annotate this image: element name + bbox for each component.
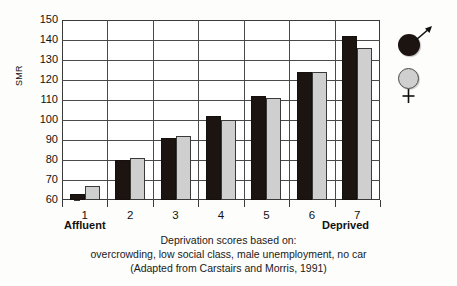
axis-end-label: Deprived bbox=[322, 219, 369, 231]
y-tick-label: 80 bbox=[24, 154, 58, 165]
bar-group bbox=[62, 20, 107, 200]
bar-male bbox=[70, 194, 85, 200]
bar-series-container bbox=[62, 20, 380, 200]
bar-male bbox=[161, 138, 176, 200]
x-category-label: 3 bbox=[156, 209, 196, 221]
x-category-label: 4 bbox=[201, 209, 241, 221]
bar-female bbox=[312, 72, 327, 200]
y-tick-label: 70 bbox=[24, 174, 58, 185]
bar-male bbox=[251, 96, 266, 200]
bar-female bbox=[221, 120, 236, 200]
y-tick-label: 100 bbox=[24, 114, 58, 125]
x-axis-tick bbox=[244, 200, 245, 207]
x-axis-tick bbox=[107, 200, 108, 207]
plot-area bbox=[62, 20, 380, 200]
x-category-label: 2 bbox=[110, 209, 150, 221]
bar-female bbox=[266, 98, 281, 200]
axis-start-label: Affluent bbox=[64, 219, 106, 231]
x-axis-tick bbox=[198, 200, 199, 207]
x-axis-tick bbox=[335, 200, 336, 207]
y-tick-label: 60 bbox=[24, 194, 58, 205]
bar-group bbox=[107, 20, 152, 200]
x-axis-tick bbox=[153, 200, 154, 207]
bar-group bbox=[198, 20, 243, 200]
y-tick-label: 110 bbox=[24, 94, 58, 105]
x-axis-tick bbox=[289, 200, 290, 207]
y-tick-label: 140 bbox=[24, 34, 58, 45]
bar-male bbox=[115, 160, 130, 200]
bar-male bbox=[297, 72, 312, 200]
y-tick-label: 120 bbox=[24, 74, 58, 85]
bar-group bbox=[244, 20, 289, 200]
caption-line-3: (Adapted from Carstairs and Morris, 1991… bbox=[0, 261, 457, 275]
y-tick-label: 90 bbox=[24, 134, 58, 145]
legend bbox=[398, 24, 454, 110]
y-major-tick bbox=[74, 200, 80, 201]
bar-female bbox=[85, 186, 100, 200]
bar-group bbox=[153, 20, 198, 200]
chart-figure: SMR 60708090100110120130140150 1234567 A… bbox=[0, 0, 457, 286]
y-tick-label: 130 bbox=[24, 54, 58, 65]
female-cross-icon bbox=[398, 86, 454, 116]
y-tick-label: 150 bbox=[24, 14, 58, 25]
caption-line-1: Deprivation scores based on: bbox=[0, 233, 457, 247]
bar-group bbox=[335, 20, 380, 200]
caption-line-2: overcrowding, low social class, male une… bbox=[0, 247, 457, 261]
bar-female bbox=[176, 136, 191, 200]
bar-male bbox=[342, 36, 357, 200]
x-category-label: 5 bbox=[246, 209, 286, 221]
x-axis-tick bbox=[380, 200, 381, 207]
x-axis-tick bbox=[62, 200, 63, 207]
bar-male bbox=[206, 116, 221, 200]
bar-group bbox=[289, 20, 334, 200]
male-arrow-icon bbox=[398, 24, 454, 64]
bar-female bbox=[357, 48, 372, 200]
bar-female bbox=[130, 158, 145, 200]
